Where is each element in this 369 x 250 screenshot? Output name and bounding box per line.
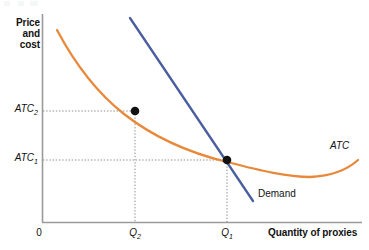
demand-curve [130, 18, 253, 201]
y-axis-title-line-2: and [12, 29, 40, 40]
y-axis-title-line-3: cost [12, 40, 40, 51]
economics-atc-demand-chart: Price and cost Quantity of proxies ATC2 … [0, 0, 369, 250]
x-tick-label-origin: 0 [32, 228, 46, 239]
y-tick-atc1-subscript: 1 [34, 158, 38, 165]
atc-curve-label: ATC [330, 141, 349, 152]
y-tick-atc1-base: ATC [15, 152, 34, 163]
y-tick-atc2-subscript: 2 [34, 109, 38, 116]
chart-canvas [0, 0, 369, 250]
y-tick-label-atc1: ATC1 [2, 153, 38, 166]
demand-curve-label: Demand [258, 189, 296, 200]
atc-curve [57, 30, 358, 177]
x-tick-q1-base: Q [221, 227, 229, 238]
x-tick-label-q1: Q1 [214, 228, 240, 241]
y-axis-title: Price and cost [12, 18, 40, 50]
point-marker-q2 [131, 107, 140, 116]
y-tick-atc2-base: ATC [15, 103, 34, 114]
x-axis-title: Quantity of proxies [268, 228, 357, 239]
x-tick-label-q2: Q2 [122, 228, 148, 241]
x-tick-q2-subscript: 2 [137, 233, 141, 240]
x-tick-q1-subscript: 1 [229, 233, 233, 240]
y-tick-label-atc2: ATC2 [2, 104, 38, 117]
x-tick-q2-base: Q [129, 227, 137, 238]
point-marker-q1 [223, 156, 232, 165]
